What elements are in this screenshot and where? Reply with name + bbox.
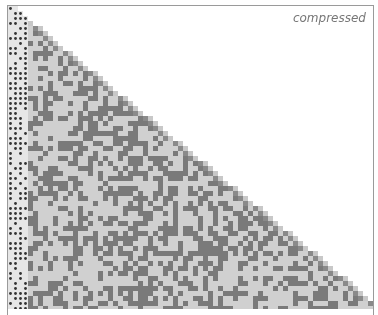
cellular-automaton-grid <box>8 6 374 309</box>
panel-label: compressed <box>293 11 366 25</box>
